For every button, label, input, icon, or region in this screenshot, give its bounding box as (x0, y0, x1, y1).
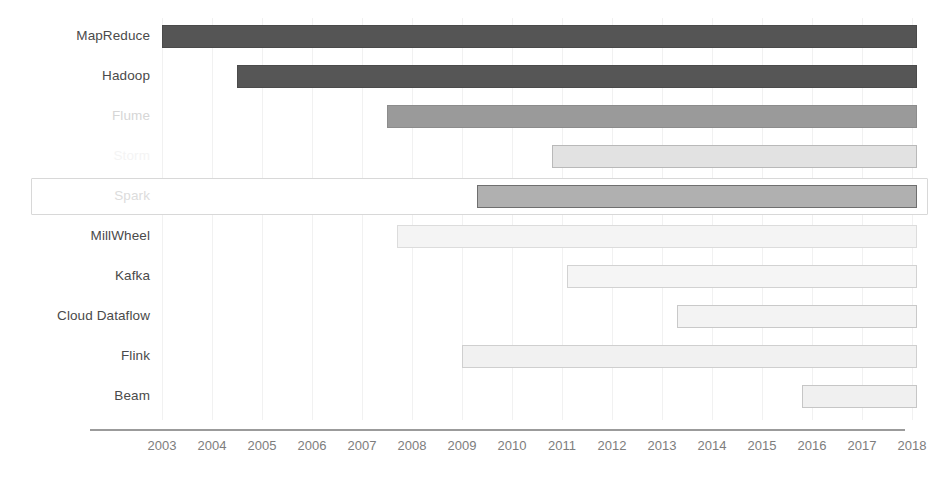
chart-row[interactable]: MillWheel (0, 216, 939, 256)
row-label-storm: Storm (0, 136, 150, 176)
x-tick-label: 2010 (490, 436, 534, 456)
timeline-bar-flink[interactable] (462, 345, 917, 368)
x-axis-tick-labels: 2003200420052006200720082009201020112012… (0, 436, 939, 458)
x-tick-label: 2008 (390, 436, 434, 456)
row-label-flume: Flume (0, 96, 150, 136)
x-tick-label: 2015 (740, 436, 784, 456)
chart-row[interactable]: Spark (0, 176, 939, 216)
row-label-beam: Beam (0, 376, 150, 416)
x-tick-label: 2014 (690, 436, 734, 456)
chart-row[interactable]: Hadoop (0, 56, 939, 96)
chart-row[interactable]: Flume (0, 96, 939, 136)
x-tick-label: 2004 (190, 436, 234, 456)
row-label-spark: Spark (0, 176, 150, 216)
row-label-kafka: Kafka (0, 256, 150, 296)
x-tick-label: 2013 (640, 436, 684, 456)
timeline-bar-beam[interactable] (802, 385, 917, 408)
chart-row[interactable]: MapReduce (0, 16, 939, 56)
x-tick-label: 2011 (540, 436, 584, 456)
x-tick-label: 2007 (340, 436, 384, 456)
row-label-flink: Flink (0, 336, 150, 376)
row-label-millwheel: MillWheel (0, 216, 150, 256)
timeline-bar-kafka[interactable] (567, 265, 917, 288)
chart-row[interactable]: Cloud Dataflow (0, 296, 939, 336)
x-tick-label: 2009 (440, 436, 484, 456)
plot-area: MapReduceHadoopFlumeStormSparkMillWheelK… (0, 0, 939, 478)
timeline-bar-cloud-dataflow[interactable] (677, 305, 917, 328)
chart-row[interactable]: Beam (0, 376, 939, 416)
row-label-cloud-dataflow: Cloud Dataflow (0, 296, 150, 336)
x-tick-label: 2018 (890, 436, 934, 456)
x-tick-label: 2003 (140, 436, 184, 456)
timeline-chart: MapReduceHadoopFlumeStormSparkMillWheelK… (0, 0, 939, 478)
row-label-mapreduce: MapReduce (0, 16, 150, 56)
timeline-bar-spark[interactable] (477, 185, 917, 208)
chart-row[interactable]: Flink (0, 336, 939, 376)
x-tick-label: 2012 (590, 436, 634, 456)
timeline-bar-hadoop[interactable] (237, 65, 917, 88)
x-axis-line (90, 429, 905, 431)
chart-row[interactable]: Storm (0, 136, 939, 176)
timeline-bar-storm[interactable] (552, 145, 917, 168)
x-tick-label: 2006 (290, 436, 334, 456)
x-tick-label: 2017 (840, 436, 884, 456)
row-label-hadoop: Hadoop (0, 56, 150, 96)
timeline-bar-millwheel[interactable] (397, 225, 917, 248)
chart-row[interactable]: Kafka (0, 256, 939, 296)
timeline-bar-mapreduce[interactable] (162, 25, 917, 48)
x-tick-label: 2016 (790, 436, 834, 456)
timeline-bar-flume[interactable] (387, 105, 917, 128)
x-tick-label: 2005 (240, 436, 284, 456)
